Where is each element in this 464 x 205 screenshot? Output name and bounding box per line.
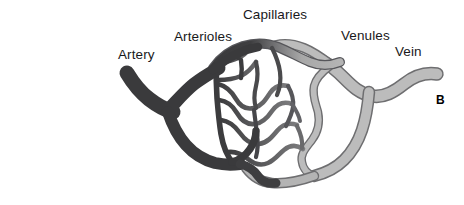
- panel-label: B: [436, 94, 445, 106]
- microcirculation-figure: Artery Arterioles Capillaries Venules Ve…: [0, 0, 464, 205]
- capillary-segment: [241, 60, 242, 78]
- venule-lower-branch-fill: [314, 92, 369, 176]
- capillary-riser: [255, 62, 258, 108]
- label-capillaries: Capillaries: [243, 8, 307, 22]
- label-venules: Venules: [341, 29, 390, 43]
- capillary-network: [216, 46, 303, 164]
- arteriole-upper-trunk: [168, 68, 219, 110]
- label-arterioles: Arterioles: [174, 30, 232, 44]
- label-vein: Vein: [395, 45, 422, 59]
- label-artery: Artery: [118, 48, 155, 62]
